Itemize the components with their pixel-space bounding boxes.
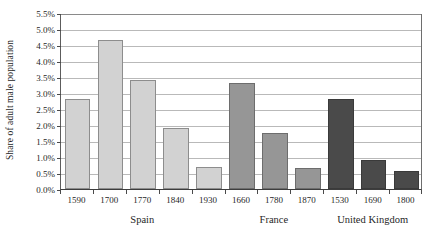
plot-area [60,14,422,190]
x-axis-tick [60,190,61,194]
x-axis-tick [126,190,127,194]
x-tick-label-1800: 1800 [397,195,415,205]
bar-1800 [394,171,420,189]
y-tick-label-3.5: 3.5% [36,73,55,83]
y-tick-label-2.5: 2.5% [36,105,55,115]
bar-1700 [98,40,124,189]
x-axis-tick [192,190,193,194]
bars-layer [61,14,421,189]
x-tick-label-1590: 1590 [67,195,85,205]
y-axis-title-text: Share of adult male population [5,40,15,160]
bar-chart: Share of adult male population 5.5%5.0%4… [0,0,436,238]
bar-1590 [65,99,91,189]
bar-1770 [130,80,156,189]
y-tick-label-2.0: 2.0% [36,121,55,131]
y-tick-label-1.5: 1.5% [36,137,55,147]
y-tick-label-4.5: 4.5% [36,41,55,51]
x-tick-label-1690: 1690 [364,195,382,205]
x-axis-tick [389,190,390,194]
group-label-france: France [260,214,289,225]
x-tick-label-1770: 1770 [133,195,151,205]
y-axis-title: Share of adult male population [0,0,20,200]
bar-1690 [361,160,387,189]
x-axis-tick [356,190,357,194]
bar-1930 [196,167,222,189]
x-tick-label-1930: 1930 [199,195,217,205]
bar-1530 [328,99,354,189]
x-axis-tick [290,190,291,194]
bar-1840 [163,128,189,189]
bar-1870 [295,168,321,189]
x-axis-tick [93,190,94,194]
x-tick-label-1660: 1660 [232,195,250,205]
y-tick-label-0.0: 0.0% [36,185,55,195]
x-axis: 15901700177018401930Spain166017801870Fra… [60,190,422,238]
group-label-united-kingdom: United Kingdom [337,214,408,225]
x-tick-label-1700: 1700 [100,195,118,205]
x-axis-tick [257,190,258,194]
bar-1780 [262,133,288,189]
x-axis-tick [323,190,324,194]
x-tick-label-1780: 1780 [265,195,283,205]
x-axis-tick [159,190,160,194]
x-axis-tick [225,190,226,194]
y-tick-label-1.0: 1.0% [36,153,55,163]
bar-1660 [229,83,255,189]
x-tick-label-1870: 1870 [298,195,316,205]
y-tick-label-4.0: 4.0% [36,57,55,67]
y-tick-label-5.0: 5.0% [36,25,55,35]
y-tick-label-0.5: 0.5% [36,169,55,179]
x-axis-tick [421,190,422,194]
group-label-spain: Spain [130,214,154,225]
y-axis-tick-labels: 5.5%5.0%4.5%4.0%3.5%3.0%2.5%2.0%1.5%1.0%… [20,0,58,190]
y-tick-label-5.5: 5.5% [36,9,55,19]
x-tick-label-1530: 1530 [331,195,349,205]
y-tick-label-3.0: 3.0% [36,89,55,99]
x-tick-label-1840: 1840 [166,195,184,205]
